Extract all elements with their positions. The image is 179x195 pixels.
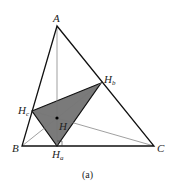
label-b: B [12, 142, 19, 154]
label-h: H [58, 120, 68, 132]
label-ha: Ha [51, 148, 64, 162]
label-hc: Hc [17, 104, 30, 118]
orthic-triangle [32, 83, 101, 146]
label-a: A [52, 12, 60, 24]
orthic-triangle-diagram: A B C Ha Hb Hc H (a) [0, 0, 179, 195]
label-c: C [157, 142, 165, 154]
figure-caption: (a) [82, 169, 93, 181]
triangle-abc [22, 26, 154, 146]
label-hb: Hb [103, 73, 116, 87]
